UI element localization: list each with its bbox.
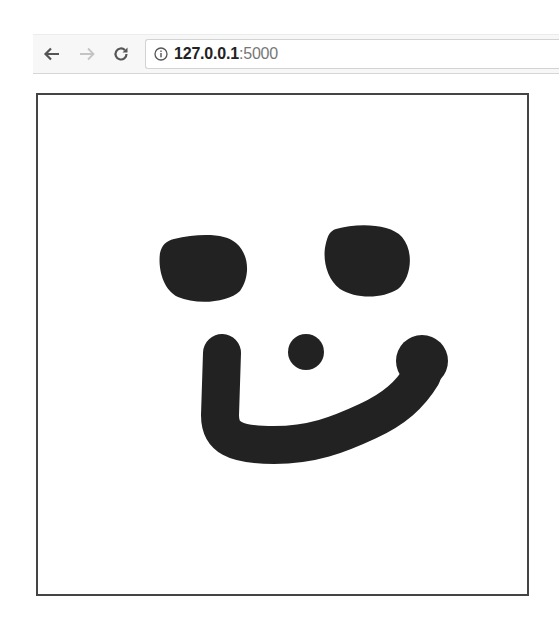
url-host: 127.0.0.1 (174, 45, 239, 62)
mouth-end (396, 335, 448, 387)
right-eye (325, 225, 410, 296)
url-port: :5000 (239, 45, 278, 62)
drawing-surface (38, 95, 527, 594)
address-bar[interactable]: 127.0.0.1:5000 (145, 39, 559, 69)
arrow-right-icon (78, 45, 96, 63)
info-icon[interactable] (154, 47, 168, 61)
reload-icon (112, 45, 130, 63)
arrow-left-icon (43, 45, 61, 63)
nose (288, 334, 324, 370)
url-text: 127.0.0.1:5000 (174, 45, 278, 63)
reload-button[interactable] (110, 43, 132, 65)
left-eye (160, 235, 248, 302)
browser-toolbar: 127.0.0.1:5000 (33, 34, 559, 74)
drawing-canvas[interactable] (36, 93, 529, 596)
back-button[interactable] (41, 43, 63, 65)
mouth (220, 353, 422, 445)
forward-button[interactable] (76, 43, 98, 65)
